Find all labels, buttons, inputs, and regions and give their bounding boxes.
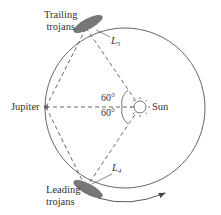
jupiter-icon: [44, 105, 48, 109]
jupiter-label: Jupiter: [11, 101, 40, 113]
jupiter-orbit: [45, 28, 205, 188]
sun-label: Sun: [152, 101, 168, 113]
trailing-trojans-label: Trailing trojans: [44, 9, 77, 33]
angle-bottom-label: 60°: [101, 107, 115, 119]
l4-label: L4: [112, 162, 121, 177]
orbit-direction-arrow: [98, 193, 165, 202]
l5-label: L5: [111, 35, 120, 50]
angle-top-label: 60°: [101, 92, 115, 104]
leading-trojans-label: Leading trojans: [46, 184, 80, 208]
